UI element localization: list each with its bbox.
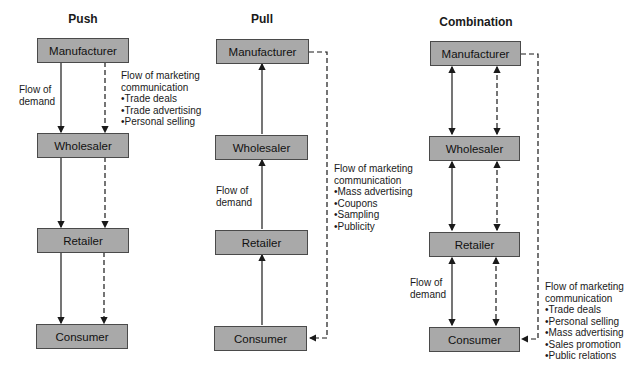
pull-consumer-box: Consumer: [214, 326, 307, 351]
combination-wholesaler-box: Wholesaler: [429, 136, 520, 161]
combination-comm-item: Trade deals: [545, 304, 624, 316]
pull-comm-item: Publicity: [334, 221, 413, 233]
combination-communication-label: Flow of marketing communication Trade de…: [545, 281, 624, 362]
pull-comm-item: Sampling: [334, 209, 413, 221]
push-retailer-box: Retailer: [37, 228, 129, 253]
combination-comm-item: Public relations: [545, 350, 624, 362]
combination-manufacturer-box: Manufacturer: [430, 41, 521, 66]
combination-demand-label: Flow of demand: [410, 277, 446, 300]
pull-comm-item: Coupons: [334, 198, 413, 210]
combination-consumer-box: Consumer: [429, 327, 520, 352]
push-demand-label: Flow of demand: [19, 84, 55, 107]
push-communication-label: Flow of marketing communication Trade de…: [121, 70, 201, 128]
push-consumer-box: Consumer: [36, 324, 128, 349]
combination-comm-item: Mass advertising: [545, 327, 624, 339]
push-title: Push: [37, 12, 129, 26]
pull-manufacturer-box: Manufacturer: [216, 39, 309, 64]
combination-comm-item: Personal selling: [545, 316, 624, 328]
pull-comm-item: Mass advertising: [334, 186, 413, 198]
push-comm-item: Trade advertising: [121, 105, 201, 117]
pull-communication-label: Flow of marketing communication Mass adv…: [334, 163, 413, 232]
push-comm-item: Trade deals: [121, 93, 201, 105]
push-wholesaler-box: Wholesaler: [37, 133, 129, 158]
push-comm-item: Personal selling: [121, 116, 201, 128]
combination-title: Combination: [430, 15, 522, 29]
pull-retailer-box: Retailer: [215, 230, 308, 255]
pull-demand-label: Flow of demand: [216, 185, 252, 208]
combination-retailer-box: Retailer: [429, 232, 520, 257]
pull-wholesaler-box: Wholesaler: [215, 135, 308, 160]
combination-comm-item: Sales promotion: [545, 339, 624, 351]
push-manufacturer-box: Manufacturer: [37, 38, 129, 63]
pull-title: Pull: [216, 12, 308, 26]
